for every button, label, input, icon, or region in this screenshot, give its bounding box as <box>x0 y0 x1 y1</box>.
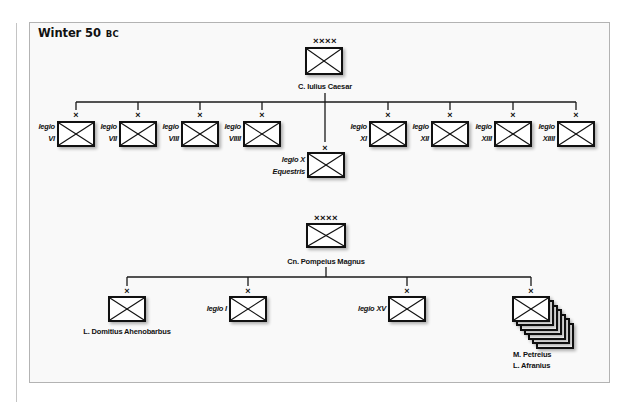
caesar-army-symbol <box>305 47 343 75</box>
legion-echelon-marker: × <box>556 111 596 120</box>
legion-xiiii-label: legio XIIII <box>495 121 555 145</box>
page-margin-rule <box>16 23 17 402</box>
legion-echelon-marker: × <box>368 111 408 120</box>
army-echelon-marker: ×××× <box>305 36 345 45</box>
title-suffix: BC <box>106 29 119 39</box>
infantry-cross-icon <box>559 123 593 145</box>
legion-vii-label: legio VII <box>57 121 117 145</box>
infantry-cross-icon <box>231 298 265 320</box>
diagram-title: Winter 50 BC <box>38 26 119 40</box>
legion-xv-symbol <box>388 296 426 322</box>
infantry-cross-icon <box>110 298 144 320</box>
infantry-cross-icon <box>308 225 344 246</box>
legion-x-equestris-symbol <box>307 152 345 178</box>
infantry-cross-icon <box>514 298 548 320</box>
infantry-cross-icon <box>307 49 341 73</box>
legion-echelon-marker: × <box>56 111 96 120</box>
pompey-army-symbol <box>306 223 346 248</box>
legion-viiii-label: legio VIIII <box>181 121 241 145</box>
legion-x-equestris-label: legio X Equestris <box>245 154 305 178</box>
legion-echelon-marker: × <box>493 111 533 120</box>
legion-i-label: legio I <box>167 303 227 315</box>
legion-echelon-marker: × <box>118 111 158 120</box>
legion-xii-label: legio XII <box>369 121 429 145</box>
pompey-commander-label: Cn. Pompeius Magnus <box>256 257 396 266</box>
title-main: Winter 50 <box>38 26 101 40</box>
domitius-label: L. Domitius Ahenobarbus <box>57 327 197 336</box>
legion-xi-label: legio XI <box>307 121 367 145</box>
legion-echelon-marker: × <box>228 287 268 296</box>
petreius-afranius-label: M. Petreius L. Afranius <box>513 349 551 371</box>
caesar-commander-label: C. Iulius Caesar <box>255 82 395 91</box>
army-echelon-marker: ×××× <box>306 213 346 222</box>
legion-viii-label: legio VIII <box>119 121 179 145</box>
stacked-legion-front-symbol <box>512 296 550 322</box>
legion-echelon-marker: × <box>242 111 282 120</box>
legion-xiiii-symbol <box>557 121 595 147</box>
legion-echelon-marker: × <box>511 287 551 296</box>
legion-echelon-marker: × <box>107 287 147 296</box>
legion-vi-label: legio VI <box>0 121 55 145</box>
infantry-cross-icon <box>245 123 279 145</box>
legion-echelon-marker: × <box>387 287 427 296</box>
domitius-unit-symbol <box>108 296 146 322</box>
legion-xiii-label: legio XIII <box>432 121 492 145</box>
legion-viiii-symbol <box>243 121 281 147</box>
order-of-battle-diagram: Winter 50 BC ×××× C. Iulius Caesar × leg… <box>0 0 626 402</box>
infantry-cross-icon <box>390 298 424 320</box>
infantry-cross-icon <box>309 154 343 176</box>
legion-echelon-marker: × <box>430 111 470 120</box>
legion-xv-label: legio XV <box>326 303 386 315</box>
legion-echelon-marker: × <box>180 111 220 120</box>
legion-i-symbol <box>229 296 267 322</box>
